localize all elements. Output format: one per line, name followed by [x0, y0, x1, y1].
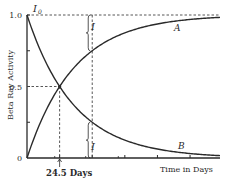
- brace-bottom: [86, 122, 90, 158]
- labels: 1.0 0.5 0 Beta Ray Activity Time in Days…: [6, 3, 213, 178]
- half-life-label: 24.5 Days: [46, 168, 92, 178]
- y-axis-label: Beta Ray Activity: [6, 49, 15, 120]
- brace-top: [86, 15, 90, 51]
- chart: 1.0 0.5 0 Beta Ray Activity Time in Days…: [0, 0, 225, 178]
- gap-label-top: I: [90, 21, 96, 32]
- ytick-label-0: 0: [17, 154, 22, 163]
- series-label-a: A: [173, 23, 181, 33]
- curve-b: [27, 15, 220, 156]
- ytick-label-1: 1.0: [9, 11, 22, 20]
- x-axis-label: Time in Days: [160, 165, 213, 174]
- curve-a: [27, 17, 220, 158]
- guide-lines: [27, 15, 220, 158]
- intersection-point: [58, 85, 61, 88]
- initial-activity-subscript: 0: [38, 8, 42, 15]
- series-label-b: B: [177, 141, 185, 151]
- gap-label-bottom: I: [90, 141, 96, 152]
